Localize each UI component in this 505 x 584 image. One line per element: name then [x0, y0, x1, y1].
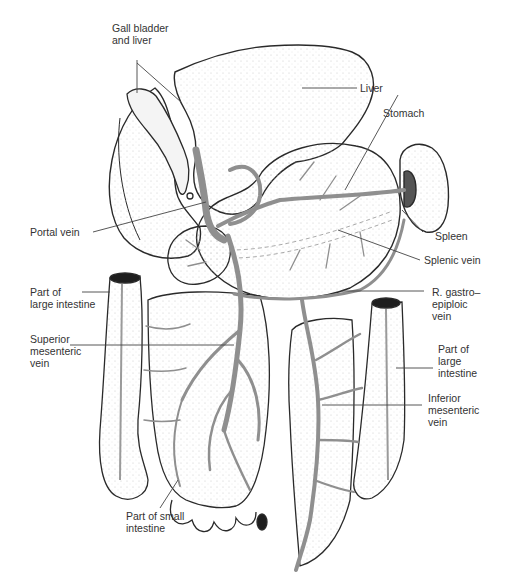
label-line: intestine — [438, 367, 477, 379]
label-line: and liver — [112, 34, 169, 46]
label-liver: Liver — [360, 82, 383, 94]
spleen-shape — [400, 144, 448, 232]
label-line: Splenic vein — [424, 254, 481, 266]
label-line: large — [438, 355, 477, 367]
label-stomach: Stomach — [383, 107, 424, 119]
label-line: Inferior — [428, 392, 479, 404]
label-line: Gall bladder — [112, 22, 169, 34]
label-spleen: Spleen — [435, 230, 468, 242]
label-part-of-large-intestine-left: Part of large intestine — [30, 286, 95, 310]
label-inferior-mesenteric-vein: Inferior mesenteric vein — [428, 392, 479, 428]
descending-colon-shape — [289, 298, 405, 566]
label-line: vein — [428, 416, 479, 428]
label-line: large intestine — [30, 298, 95, 310]
label-line: vein — [432, 310, 480, 322]
label-line: mesenteric — [428, 404, 479, 416]
ascending-colon-shape — [100, 273, 148, 499]
label-line: vein — [30, 357, 81, 369]
label-r-gastroepiploic-vein: R. gastro– epiploic vein — [432, 286, 480, 322]
label-line: Liver — [360, 82, 383, 94]
label-line: Superior — [30, 333, 81, 345]
label-part-of-small-intestine: Part of small intestine — [126, 510, 184, 534]
label-line: Spleen — [435, 230, 468, 242]
label-line: Stomach — [383, 107, 424, 119]
label-line: Portal vein — [30, 226, 80, 238]
label-line: Part of — [30, 286, 95, 298]
label-splenic-vein: Splenic vein — [424, 254, 481, 266]
label-line: intestine — [126, 522, 184, 534]
label-part-of-large-intestine-right: Part of large intestine — [438, 343, 477, 379]
label-line: R. gastro– — [432, 286, 480, 298]
label-line: epiploic — [432, 298, 480, 310]
label-superior-mesenteric-vein: Superior mesenteric vein — [30, 333, 81, 369]
label-line: mesenteric — [30, 345, 81, 357]
label-line: Part of small — [126, 510, 184, 522]
label-line: Part of — [438, 343, 477, 355]
small-intestine-shape — [148, 292, 269, 532]
label-gall-bladder-and-liver: Gall bladder and liver — [112, 22, 169, 46]
label-portal-vein: Portal vein — [30, 226, 80, 238]
